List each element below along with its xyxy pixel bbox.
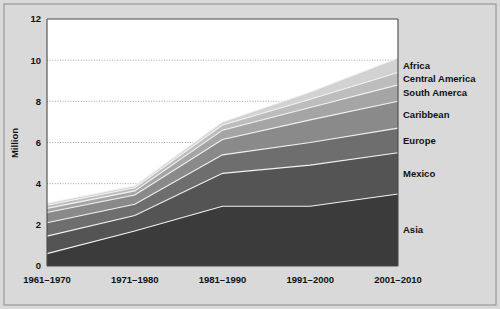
y-tick-label-10: 10 <box>30 55 41 66</box>
legend-label-europe: Europe <box>403 135 436 146</box>
x-tick-label-1: 1971–1980 <box>111 274 159 285</box>
y-tick-label-8: 8 <box>36 96 41 107</box>
y-axis-title: Million <box>9 128 20 158</box>
legend-label-caribbean: Caribbean <box>403 109 450 120</box>
legend-label-central-america: Central America <box>403 73 476 84</box>
legend-label-mexico: Mexico <box>403 168 435 179</box>
y-tick-label-6: 6 <box>36 137 41 148</box>
y-tick-label-12: 12 <box>30 13 41 24</box>
x-tick-label-4: 2001–2010 <box>374 274 422 285</box>
stacked-area-chart: 024681012 1961–19701971–19801981–1990199… <box>0 0 500 309</box>
chart-figure: 024681012 1961–19701971–19801981–1990199… <box>0 0 500 309</box>
x-tick-label-2: 1981–1990 <box>199 274 247 285</box>
legend-label-asia: Asia <box>403 224 424 235</box>
y-tick-label-4: 4 <box>36 178 42 189</box>
legend-label-africa: Africa <box>403 60 431 71</box>
legend-label-south-amerca: South Amerca <box>403 87 468 98</box>
x-tick-label-3: 1991–2000 <box>286 274 334 285</box>
y-tick-label-2: 2 <box>36 219 41 230</box>
x-tick-label-0: 1961–1970 <box>23 274 71 285</box>
y-tick-label-0: 0 <box>36 260 41 271</box>
